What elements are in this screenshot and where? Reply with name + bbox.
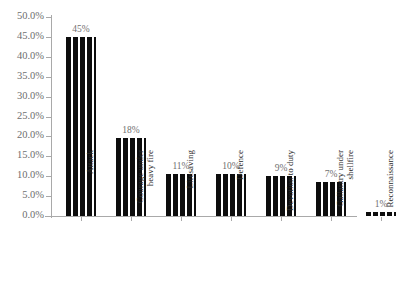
x-axis-tick [381,217,382,221]
y-axis-tick [46,117,52,118]
y-axis-label: 5.0% [1,190,44,201]
y-axis-label: 40.0% [1,51,44,62]
y-axis-label: 35.0% [1,71,44,82]
bar-value-label: 10% [206,162,256,172]
y-axis-tick [46,57,52,58]
x-axis-category-label: Reconnaissance [385,150,395,224]
bar-value-label: 45% [56,25,106,35]
y-axis-label: 20.0% [1,130,44,141]
x-axis-category-label: Devotion to duty [285,150,295,224]
y-axis-tick [46,156,52,157]
y-axis-tick [46,176,52,177]
x-axis-tick [131,217,132,221]
x-axis-category-label: Courage under heavy fire [135,150,155,224]
x-axis-category-label: Gallantry under shellfire [335,150,355,224]
y-axis-label: 0.0% [1,210,44,221]
x-axis-tick [281,217,282,221]
y-axis-tick [46,77,52,78]
y-axis-label: 50.0% [1,11,44,22]
y-axis-label: 25.0% [1,111,44,122]
y-axis-tick [46,216,52,217]
y-axis-tick [46,17,52,18]
y-axis-tick [46,196,52,197]
bar-value-label: 11% [156,162,206,172]
y-axis-label: 30.0% [1,91,44,102]
x-axis-tick [231,217,232,221]
x-axis-tick [181,217,182,221]
y-axis-tick [46,97,52,98]
x-axis-tick [331,217,332,221]
x-axis-category-label: Defence [235,150,245,224]
x-axis-category-label: Attack [85,150,95,224]
bar-value-label: 18% [106,126,156,136]
bar-value-label: 9% [256,164,306,174]
y-axis-label: 45.0% [1,31,44,42]
chart-title [0,0,361,1]
y-axis-label: 10.0% [1,170,44,181]
x-axis-tick [81,217,82,221]
y-axis-tick [46,136,52,137]
y-axis-tick [46,37,52,38]
y-axis-label: 15.0% [1,150,44,161]
x-axis-category-label: Lifesaving [185,150,195,224]
